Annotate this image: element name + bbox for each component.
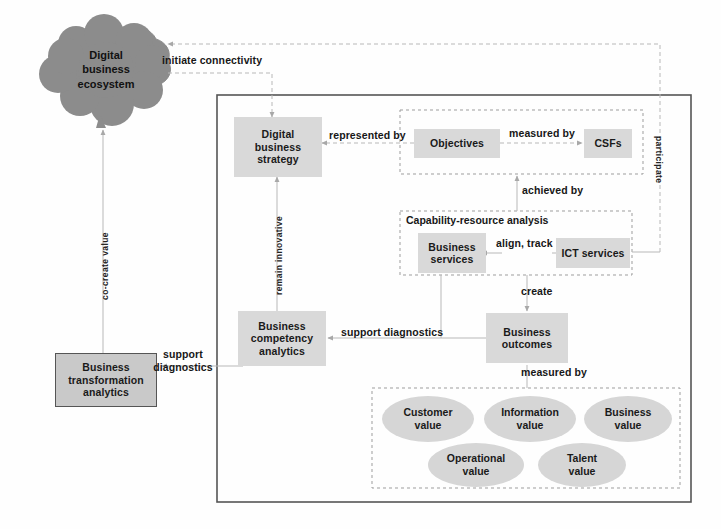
node-label: Digitalbusinessstrategy	[255, 128, 301, 165]
node-business-outcomes[interactable]: Businessoutcomes	[486, 313, 568, 363]
edge-label-achieved-by: achieved by	[522, 184, 583, 196]
ellipse-customer-value[interactable]: Customervalue	[382, 396, 474, 442]
cloud-line-2: business	[46, 62, 166, 76]
group-label-capability-resource-analysis: Capability-resource analysis	[406, 214, 548, 226]
node-business-competency-analytics[interactable]: Businesscompetencyanalytics	[238, 311, 326, 366]
node-label: Objectives	[430, 137, 484, 149]
edge-label-align-track: align, track	[496, 237, 553, 249]
edge-label-initiate-connectivity: initiate connectivity	[162, 54, 262, 66]
ellipse-label: Talentvalue	[567, 452, 597, 477]
node-business-transformation-analytics[interactable]: Businesstransformationanalytics	[55, 353, 157, 407]
ellipse-talent-value[interactable]: Talentvalue	[538, 443, 626, 487]
edge-label-support-diagnostics-mid: support diagnostics	[341, 326, 443, 338]
node-label: ICT services	[561, 247, 624, 259]
ellipse-label: Informationvalue	[501, 406, 559, 431]
node-business-services[interactable]: Businessservices	[418, 233, 486, 273]
ellipse-label: Businessvalue	[605, 406, 652, 431]
node-label: Businessservices	[428, 241, 476, 266]
edge-label-participate: participate	[654, 136, 664, 183]
edge-label-create: create	[521, 285, 553, 297]
edge-label-measured-by-csf: measured by	[509, 127, 575, 139]
node-label: Businesstransformationanalytics	[68, 361, 144, 398]
edge-label-remain-innovative: remain innovative	[274, 216, 284, 295]
edge-label-measured-by-outcomes: measured by	[521, 366, 587, 378]
node-label: Businesscompetencyanalytics	[251, 320, 313, 357]
cloud-line-1: Digital	[46, 48, 166, 62]
edge-label-support-diagnostics-left: supportdiagnostics	[152, 348, 214, 373]
ellipse-operational-value[interactable]: Operationalvalue	[428, 443, 524, 487]
edge-label-co-create-value: co-create value	[100, 232, 110, 300]
node-digital-business-strategy[interactable]: Digitalbusinessstrategy	[234, 117, 322, 177]
node-label: CSFs	[594, 137, 621, 149]
ellipse-information-value[interactable]: Informationvalue	[484, 396, 576, 442]
node-ict-services[interactable]: ICT services	[556, 238, 630, 268]
node-objectives[interactable]: Objectives	[414, 129, 500, 158]
digital-business-ecosystem-label: Digital business ecosystem	[46, 48, 166, 91]
edge-label-represented-by: represented by	[329, 129, 406, 141]
node-label: Businessoutcomes	[502, 326, 552, 351]
ellipse-label: Customervalue	[403, 406, 452, 431]
ellipse-business-value[interactable]: Businessvalue	[584, 396, 672, 442]
cloud-line-3: ecosystem	[46, 77, 166, 91]
ellipse-label: Operationalvalue	[447, 452, 505, 477]
diagram-canvas: Digital business ecosystem Digitalbusine…	[0, 0, 721, 529]
node-csfs[interactable]: CSFs	[584, 129, 632, 158]
